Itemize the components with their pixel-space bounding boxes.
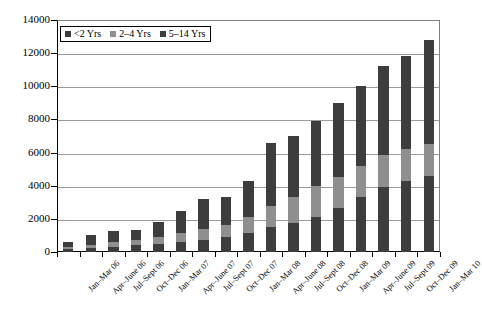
x-axis-tick-mark: [260, 252, 261, 257]
x-axis-tick-mark: [417, 252, 418, 257]
x-axis-tick-mark: [395, 252, 396, 257]
bar-segment-under-2-yrs: [63, 249, 73, 252]
bar-group: [221, 197, 231, 252]
x-axis-tick-mark: [305, 252, 306, 257]
bar-group: [63, 242, 73, 252]
bar-group: [108, 231, 118, 252]
y-axis-tick-label: 2000: [0, 213, 50, 224]
bar-segment-2-4-yrs: [401, 149, 411, 180]
bar-segment-under-2-yrs: [221, 237, 231, 252]
bar-group: [333, 103, 343, 252]
bar-group: [401, 56, 411, 252]
bar-segment-under-2-yrs: [378, 187, 388, 252]
x-axis-tick-mark: [80, 252, 81, 257]
legend-item-label: 2–4 Yrs: [119, 29, 151, 39]
bar-group: [356, 86, 366, 252]
bar-segment-5-14-yrs: [221, 197, 231, 224]
bar-group: [311, 121, 321, 252]
y-axis-tick-label: 10000: [0, 80, 50, 91]
bar-segment-under-2-yrs: [198, 240, 208, 252]
bar-segment-5-14-yrs: [131, 230, 141, 240]
bar-segment-5-14-yrs: [288, 136, 298, 197]
x-axis-tick-mark: [440, 252, 441, 257]
bar-segment-5-14-yrs: [198, 199, 208, 229]
bar-segment-5-14-yrs: [176, 211, 186, 234]
bar-segment-5-14-yrs: [424, 40, 434, 144]
bar-segment-5-14-yrs: [108, 231, 118, 242]
y-axis-tick-label: 4000: [0, 180, 50, 191]
bar-segment-2-4-yrs: [288, 197, 298, 223]
bar-segment-2-4-yrs: [378, 155, 388, 186]
bar-segment-2-4-yrs: [198, 229, 208, 239]
bars-layer: [57, 20, 440, 252]
x-axis-tick-mark: [170, 252, 171, 257]
y-axis-tick-label: 6000: [0, 147, 50, 158]
bar-group: [424, 40, 434, 252]
x-axis-tick-mark: [327, 252, 328, 257]
bar-group: [198, 199, 208, 252]
x-axis-tick-mark: [192, 252, 193, 257]
bar-segment-under-2-yrs: [131, 245, 141, 252]
bar-segment-2-4-yrs: [221, 225, 231, 237]
legend-item: <2 Yrs: [65, 29, 101, 39]
bar-group: [243, 181, 253, 252]
y-axis-tick-label: 12000: [0, 47, 50, 58]
x-axis-tick-mark: [372, 252, 373, 257]
bar-segment-under-2-yrs: [153, 244, 163, 252]
bar-segment-under-2-yrs: [176, 242, 186, 252]
bar-segment-5-14-yrs: [243, 181, 253, 217]
bar-group: [153, 222, 163, 252]
bar-segment-under-2-yrs: [311, 217, 321, 252]
bar-segment-5-14-yrs: [153, 222, 163, 237]
x-axis-tick-mark: [282, 252, 283, 257]
bar-segment-5-14-yrs: [333, 103, 343, 177]
legend-item: 2–4 Yrs: [110, 29, 151, 39]
bar-segment-under-2-yrs: [288, 223, 298, 252]
bar-segment-5-14-yrs: [311, 121, 321, 186]
bar-segment-under-2-yrs: [401, 181, 411, 252]
legend-item: 5–14 Yrs: [160, 29, 206, 39]
bar-segment-5-14-yrs: [356, 86, 366, 166]
x-axis-tick-mark: [237, 252, 238, 257]
bar-group: [266, 143, 276, 252]
bar-segment-2-4-yrs: [243, 217, 253, 233]
bar-group: [176, 211, 186, 252]
x-axis-tick-mark: [147, 252, 148, 257]
bar-segment-5-14-yrs: [266, 143, 276, 206]
bar-segment-2-4-yrs: [266, 206, 276, 228]
legend-item-label: 5–14 Yrs: [169, 29, 206, 39]
x-axis-tick-mark: [350, 252, 351, 257]
bar-group: [86, 235, 96, 252]
legend-item-label: <2 Yrs: [74, 29, 101, 39]
bar-segment-under-2-yrs: [243, 233, 253, 252]
y-axis-tick-label: 14000: [0, 14, 50, 25]
bar-group: [288, 136, 298, 252]
legend-swatch-icon: [160, 31, 166, 37]
bar-segment-2-4-yrs: [424, 144, 434, 175]
y-axis-tick-label: 0: [0, 246, 50, 257]
chart-legend: <2 Yrs2–4 Yrs5–14 Yrs: [60, 26, 211, 42]
bar-segment-2-4-yrs: [356, 166, 366, 197]
bar-segment-under-2-yrs: [424, 176, 434, 252]
x-axis-tick-mark: [57, 252, 58, 257]
bar-segment-2-4-yrs: [333, 177, 343, 208]
bar-segment-under-2-yrs: [108, 247, 118, 252]
bar-group: [131, 230, 141, 252]
bar-segment-5-14-yrs: [378, 66, 388, 155]
x-axis-tick-mark: [102, 252, 103, 257]
bar-group: [378, 66, 388, 252]
bar-segment-2-4-yrs: [153, 237, 163, 244]
bar-segment-under-2-yrs: [356, 197, 366, 252]
bar-segment-5-14-yrs: [86, 235, 96, 244]
bar-segment-5-14-yrs: [401, 56, 411, 149]
x-axis-tick-mark: [215, 252, 216, 257]
legend-swatch-icon: [65, 31, 71, 37]
legend-swatch-icon: [110, 31, 116, 37]
bar-segment-2-4-yrs: [176, 233, 186, 241]
x-axis-tick-mark: [125, 252, 126, 257]
bar-segment-under-2-yrs: [266, 227, 276, 252]
y-axis-tick-label: 8000: [0, 113, 50, 124]
bar-segment-under-2-yrs: [333, 208, 343, 252]
bar-segment-under-2-yrs: [86, 248, 96, 252]
